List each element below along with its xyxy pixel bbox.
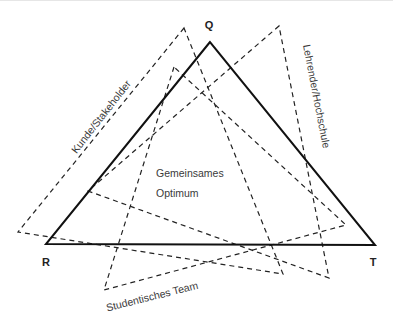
lehrender-hochschule-triangle [88, 26, 329, 278]
studentisches-team-label: Studentisches Team [105, 279, 200, 314]
center-label-line1: Gemeinsames [156, 167, 224, 179]
triangle-diagram: Q R T Kunde/Stakeholder Lehrender/Hochsc… [0, 0, 393, 321]
lehrender-hochschule-label: Lehrender/Hochschule [301, 43, 333, 149]
kunde-stakeholder-label: Kunde/Stakeholder [69, 77, 134, 155]
vertex-label-q: Q [205, 19, 214, 31]
center-label-line2: Optimum [156, 187, 199, 199]
kunde-stakeholder-triangle [18, 28, 283, 274]
vertex-label-r: R [42, 256, 50, 268]
studentisches-team-triangle [104, 67, 346, 290]
vertex-label-t: T [370, 256, 377, 268]
